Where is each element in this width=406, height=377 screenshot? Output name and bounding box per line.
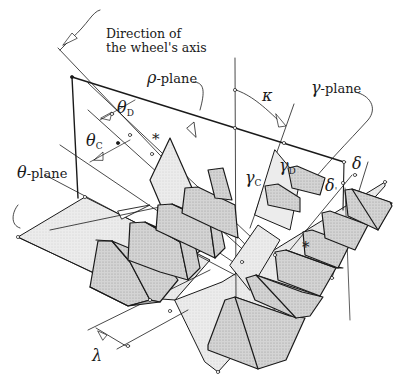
- gamma-plane-label: γ-plane: [311, 80, 361, 96]
- wheel-axis-label: Direction of the wheel's axis: [106, 27, 207, 55]
- rho-plane-outline: [72, 77, 78, 198]
- delta-prime-label: δ': [325, 178, 337, 196]
- gamma-c-label: γC: [245, 170, 261, 188]
- asterisk-marker-2: *: [302, 240, 310, 255]
- gamma-d-label: γD: [279, 158, 296, 176]
- rho-plane-leader: [193, 82, 203, 110]
- diagram-drawing: [0, 0, 406, 377]
- delta-label: δ: [352, 156, 362, 172]
- wheel-axis-leader: [60, 10, 100, 50]
- kappa-label: κ: [262, 88, 273, 104]
- kappa-leader: [236, 90, 283, 125]
- wheel-axis-label-line1: Direction of: [106, 27, 207, 41]
- theta-plane-label: θ-plane: [17, 165, 67, 181]
- asterisk-marker-1: *: [152, 132, 160, 147]
- theta-plane-leader: [13, 205, 20, 228]
- rho-plane-label: ρ-plane: [147, 70, 197, 86]
- theta-d-label: θD: [117, 100, 134, 118]
- theta-c-label: θC: [86, 133, 103, 151]
- diagram-canvas: Direction of the wheel's axis ρ-plane γ-…: [0, 0, 406, 377]
- wheel-axis-label-line2: the wheel's axis: [106, 41, 207, 55]
- lambda-label: λ: [92, 348, 102, 364]
